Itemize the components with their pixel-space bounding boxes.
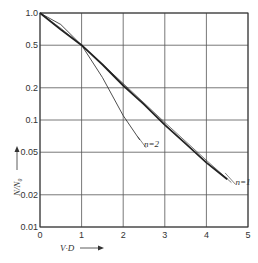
y-tick-label: 0.05 bbox=[20, 147, 38, 157]
svg-text:N/N₀: N/N₀ bbox=[12, 178, 22, 197]
annotation-label: n=2 bbox=[144, 139, 160, 149]
series-line bbox=[40, 13, 140, 140]
x-tick-label: 5 bbox=[245, 230, 250, 240]
series-line bbox=[40, 13, 227, 179]
y-tick-label: 0.5 bbox=[25, 40, 38, 50]
tick-labels: 0123451.00.50.20.10.050.020.01 bbox=[20, 8, 250, 240]
grid bbox=[40, 13, 248, 227]
y-tick-label: 0.2 bbox=[25, 83, 38, 93]
x-axis-label: V·D bbox=[60, 243, 104, 253]
arrow-up-icon bbox=[15, 146, 20, 152]
y-tick-label: 0.01 bbox=[20, 222, 38, 232]
annotations: n=2n=1 bbox=[138, 137, 251, 188]
series-lines bbox=[40, 13, 231, 183]
y-tick-label: 1.0 bbox=[25, 8, 38, 18]
y-tick-label: 0.02 bbox=[20, 190, 38, 200]
x-tick-label: 3 bbox=[162, 230, 167, 240]
x-tick-label: 1 bbox=[79, 230, 84, 240]
x-tick-label: 4 bbox=[204, 230, 209, 240]
x-tick-label: 0 bbox=[37, 230, 42, 240]
chart: 0123451.00.50.20.10.050.020.01 n=2n=1 V·… bbox=[0, 0, 258, 263]
arrow-right-icon bbox=[98, 246, 104, 251]
annotation-label: n=1 bbox=[236, 177, 251, 187]
svg-text:V·D: V·D bbox=[60, 243, 75, 253]
x-tick-label: 2 bbox=[121, 230, 126, 240]
y-tick-label: 0.1 bbox=[25, 115, 38, 125]
